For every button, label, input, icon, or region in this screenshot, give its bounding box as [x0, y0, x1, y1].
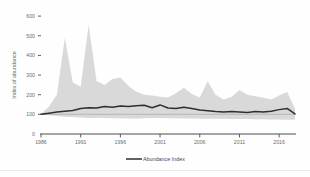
y-axis-title: Index of abundance: [11, 51, 17, 98]
y-tick-label: 600: [26, 13, 35, 19]
chart-legend: Abundance Index: [126, 156, 185, 162]
x-tick-label: 1986: [35, 139, 47, 145]
y-tick-label: 300: [26, 72, 35, 78]
y-tick-label: 400: [26, 52, 35, 58]
x-tick-label: 1996: [115, 139, 127, 145]
y-tick-label: 500: [26, 33, 35, 39]
x-tick-label: 2016: [273, 139, 285, 145]
legend-label-abundance-index: Abundance Index: [143, 156, 185, 162]
y-tick-label: 200: [26, 92, 35, 98]
x-tick-label: 2011: [234, 139, 245, 145]
x-axis-tick-labels: 1986199119962001200620112016: [35, 139, 285, 145]
y-tick-label: 0: [32, 131, 35, 137]
y-axis-tick-labels: 6005004003002001000: [26, 13, 35, 137]
y-axis-ticks: [38, 16, 41, 114]
chart-figure: 6005004003002001000 19861991199620012006…: [0, 0, 310, 177]
x-tick-label: 1991: [75, 139, 87, 145]
abundance-index-chart: 6005004003002001000 19861991199620012006…: [0, 0, 310, 177]
y-tick-label: 100: [26, 111, 35, 117]
figure-bottom-rule: [0, 170, 310, 171]
confidence-band: [41, 25, 295, 120]
x-tick-label: 2006: [194, 139, 206, 145]
x-tick-label: 2001: [154, 139, 166, 145]
